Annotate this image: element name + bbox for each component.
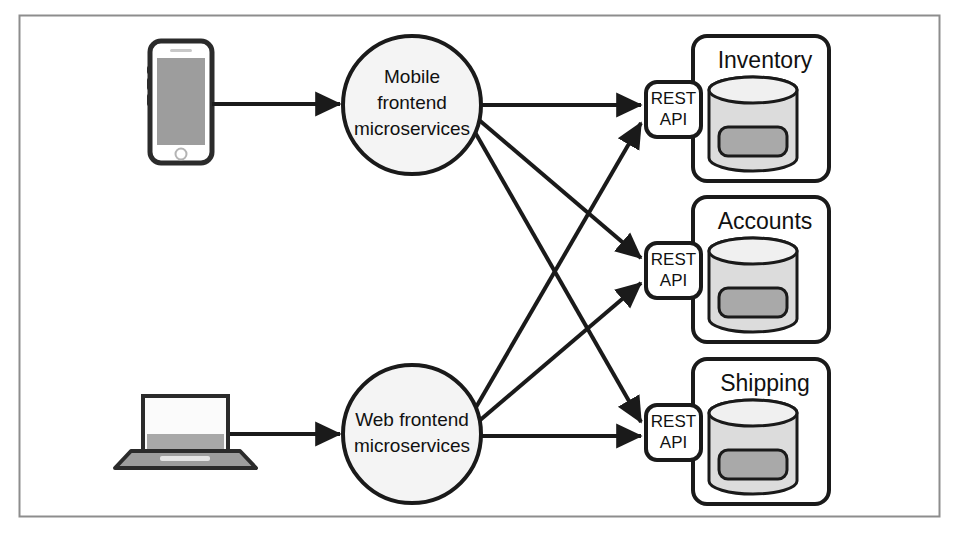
- inventory-title: Inventory: [718, 47, 813, 73]
- shipping-title: Shipping: [720, 370, 810, 396]
- mobile-frontend-label-line3: microservices: [354, 118, 470, 139]
- connector-web-frontend-to-accounts: [472, 283, 641, 427]
- service-mesh-connectors: [468, 105, 641, 436]
- accounts-api-label-line2: API: [660, 271, 687, 290]
- mobile-frontend-label-line1: Mobile: [384, 66, 440, 87]
- shipping-api-label-line1: REST: [651, 412, 696, 431]
- accounts-rest-api-badge[interactable]: REST API: [646, 243, 701, 298]
- accounts-title: Accounts: [718, 208, 813, 234]
- service-accounts[interactable]: Accounts REST API: [646, 197, 829, 342]
- node-web-frontend[interactable]: Web frontend microservices: [343, 365, 481, 503]
- connector-mobile-frontend-to-accounts: [472, 114, 641, 258]
- web-frontend-label-line2: microservices: [354, 435, 470, 456]
- inventory-rest-api-badge[interactable]: REST API: [646, 82, 701, 137]
- accounts-api-label-line1: REST: [651, 250, 696, 269]
- shipping-api-label-line2: API: [660, 433, 687, 452]
- accounts-database-icon: [709, 238, 797, 332]
- shipping-database-icon: [709, 400, 797, 494]
- inventory-database-icon: [709, 77, 797, 171]
- mobile-frontend-label-line2: frontend: [377, 92, 447, 113]
- smartphone-icon: [147, 41, 212, 163]
- service-inventory[interactable]: Inventory REST API: [646, 36, 829, 181]
- architecture-diagram: Mobile frontend microservices Web fronte…: [0, 0, 954, 533]
- web-frontend-label-line1: Web frontend: [355, 409, 469, 430]
- node-mobile-frontend[interactable]: Mobile frontend microservices: [343, 36, 481, 174]
- shipping-rest-api-badge[interactable]: REST API: [646, 405, 701, 460]
- inventory-api-label-line1: REST: [651, 89, 696, 108]
- service-shipping[interactable]: Shipping REST API: [646, 359, 829, 504]
- inventory-api-label-line2: API: [660, 110, 687, 129]
